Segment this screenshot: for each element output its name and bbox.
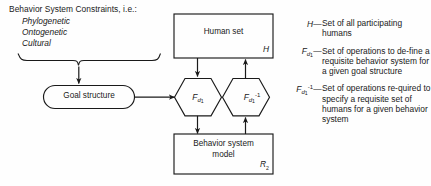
figure-canvas: Behavior System Constraints, i.e.: Phylo…: [0, 0, 431, 186]
behavior-model-tag-subscript: 2: [266, 165, 269, 171]
legend-text-h: Set of all participating humans: [322, 18, 431, 39]
operator-forward-label: Fd1: [176, 92, 220, 104]
legend-symbol-h: H: [292, 18, 313, 29]
constraint-item-cultural: Cultural: [22, 38, 51, 48]
operator-inverse-sup: -1: [255, 92, 260, 98]
constraint-item-phylogenetic: Phylogenetic: [22, 16, 70, 26]
legend-dash-operator-forward: —: [313, 46, 322, 57]
operator-inverse-subsub: 1: [252, 98, 255, 104]
legend-entry-operator-forward: Fd1 — Set of operations to de-fine a req…: [292, 46, 431, 77]
constraints-title: Behavior System Constraints, i.e.:: [9, 4, 137, 14]
goal-structure-label: Goal structure: [43, 91, 135, 100]
legend-dash-operator-inverse: —: [313, 83, 322, 94]
legend-entry-h: H — Set of all participating humans: [292, 18, 431, 39]
legend-text-operator-inverse: Set of operations re-quired to specify a…: [322, 83, 431, 124]
behavior-model-tag: R2: [174, 159, 269, 171]
operator-forward-subsub: 1: [201, 98, 204, 104]
operator-inverse-label: Fd1-1: [228, 92, 276, 104]
legend: H — Set of all participating humans Fd1 …: [292, 18, 431, 132]
legend-dash-h: —: [313, 18, 322, 29]
legend-text-operator-forward: Set of operations to de-fine a requisite…: [322, 46, 431, 77]
constraint-item-ontogenetic: Ontogenetic: [22, 27, 67, 37]
human-set-label: Human set: [174, 27, 273, 36]
legend-symbol-inverse-subsub: 1: [305, 90, 308, 96]
behavior-model-label: Behavior systemmodel: [174, 138, 273, 160]
legend-symbol-operator-forward: Fd1: [292, 46, 313, 58]
constraints-brace: [18, 54, 161, 66]
legend-symbol-operator-inverse: Fd1-1: [292, 83, 313, 95]
legend-entry-operator-inverse: Fd1-1 — Set of operations re-quired to s…: [292, 83, 431, 124]
human-set-tag: H: [174, 44, 269, 54]
